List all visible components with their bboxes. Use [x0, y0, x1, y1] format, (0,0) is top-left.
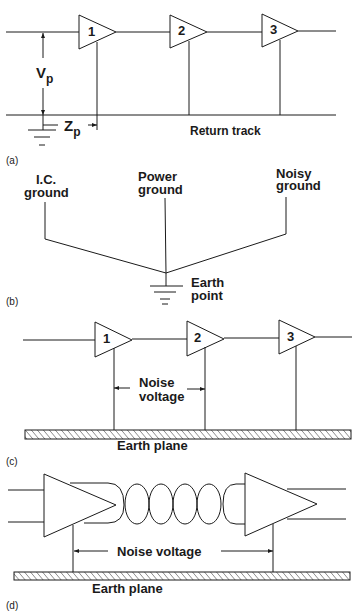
zp-label: Zp	[64, 117, 81, 139]
arrow-up-icon	[41, 33, 45, 38]
noise-voltage-label: Noise voltage	[117, 544, 202, 559]
ground-symbol-icon	[150, 286, 183, 304]
arrow-left-icon	[114, 386, 119, 390]
amplifier-label: 3	[287, 329, 294, 344]
noisy-ground-label: ground	[276, 178, 321, 193]
amplifier-label: 3	[270, 22, 277, 37]
power-ground-label: ground	[138, 182, 183, 197]
panel-c: 1 2 3 Noise voltage Earth plane (c)	[6, 320, 352, 467]
amplifier-label: 2	[178, 23, 185, 38]
earth-point-label: point	[191, 288, 223, 303]
amplifier-label: 1	[88, 24, 95, 39]
panel-caption: (a)	[6, 155, 18, 166]
ic-ground-label: ground	[24, 185, 69, 200]
arrow-right-icon	[200, 387, 205, 391]
amplifier-label: 2	[194, 330, 201, 345]
panel-caption: (d)	[6, 600, 18, 611]
earth-plane	[25, 430, 351, 439]
amplifier-3: 3	[279, 320, 315, 354]
panel-caption: (b)	[6, 296, 18, 307]
arrow-right-icon	[92, 123, 97, 127]
return-track-label: Return track	[190, 124, 261, 138]
panel-caption: (c)	[6, 456, 18, 467]
noise-voltage-label: voltage	[139, 389, 185, 404]
power-ground-wire	[165, 198, 166, 273]
amplifier-receive	[245, 473, 317, 536]
earth-plane-label: Earth plane	[92, 581, 163, 596]
noise-voltage-label: Noise	[139, 375, 174, 390]
arrow-down-icon	[41, 110, 45, 115]
noisy-ground-wire	[166, 197, 286, 273]
earth-plane-label: Earth plane	[117, 438, 188, 453]
ic-ground-wire	[45, 202, 166, 273]
panel-d: Noise voltage Earth plane (d)	[6, 473, 350, 611]
panel-b: I.C. ground Power ground Noisy ground Ea…	[6, 166, 321, 307]
arrow-right-icon	[268, 549, 273, 553]
earth-plane	[14, 572, 350, 580]
amplifier-label: 1	[103, 331, 110, 346]
panel-a: 1 2 3 Vp Zp Return tr	[6, 14, 336, 166]
arrow-left-icon	[74, 549, 79, 553]
grounding-diagram: 1 2 3 Vp Zp Return tr	[0, 0, 358, 611]
ground-symbol-icon	[28, 130, 56, 145]
